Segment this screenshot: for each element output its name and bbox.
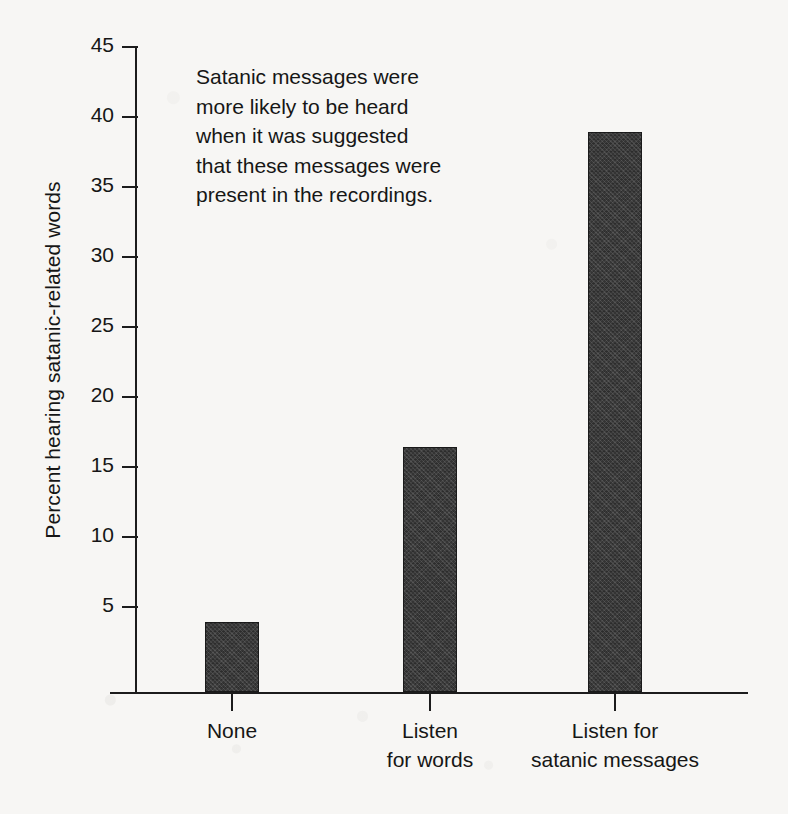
y-axis-tick-mark [122,396,138,398]
bar-none[interactable] [205,622,259,692]
y-axis-tick-5: 5 [56,606,138,608]
y-axis-tick-35: 35 [56,186,138,188]
bar-chart-figure: Percent hearing satanic-related words 45… [0,0,788,814]
y-axis-tick-mark [122,256,138,258]
y-axis-tick-45: 45 [56,46,138,48]
y-axis-tick-label-30: 30 [91,242,114,268]
chart-annotation-text: Satanic messages were more likely to be … [196,62,516,210]
y-axis-line [135,46,137,694]
x-axis-tick-mark-none [231,694,233,711]
y-axis-tick-mark [122,536,138,538]
y-axis-tick-label-40: 40 [91,102,114,128]
x-axis-label-listen-for-words: Listen for words [350,716,510,774]
y-axis-tick-label-45: 45 [91,32,114,58]
y-axis-tick-label-35: 35 [91,172,114,198]
y-axis-tick-label-5: 5 [102,592,114,618]
y-axis-tick-mark [122,46,138,48]
y-axis-title: Percent hearing satanic-related words [30,30,76,690]
y-axis-tick-mark [122,186,138,188]
y-axis-tick-mark [122,116,138,118]
y-axis-tick-40: 40 [56,116,138,118]
x-axis-label-none: None [152,716,312,745]
x-axis-label-listen-for-satanic-messages: Listen for satanic messages [505,716,725,774]
y-axis-tick-label-25: 25 [91,312,114,338]
bar-listen-for-satanic-messages[interactable] [588,132,642,692]
y-axis-tick-mark [122,466,138,468]
y-axis-tick-label-20: 20 [91,382,114,408]
x-axis-tick-mark-listen-for-words [429,694,431,711]
y-axis-tick-label-10: 10 [91,522,114,548]
y-axis-tick-mark [122,326,138,328]
bar-listen-for-words[interactable] [403,447,457,692]
y-axis-tick-label-15: 15 [91,452,114,478]
y-axis-tick-mark [122,606,138,608]
y-axis-tick-25: 25 [56,326,138,328]
y-axis-tick-15: 15 [56,466,138,468]
y-axis-tick-10: 10 [56,536,138,538]
y-axis-tick-30: 30 [56,256,138,258]
y-axis-tick-20: 20 [56,396,138,398]
x-axis-tick-mark-listen-for-satanic-messages [614,694,616,711]
